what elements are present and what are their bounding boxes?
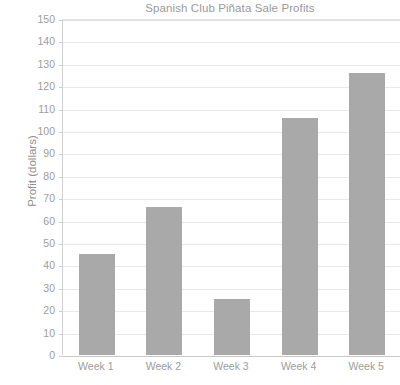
y-tick-label: 0 <box>15 349 55 361</box>
y-tick-label: 90 <box>15 147 55 159</box>
plot-area <box>62 19 400 355</box>
gridline <box>63 65 400 66</box>
y-tick-mark <box>59 266 63 267</box>
y-tick-mark <box>59 110 63 111</box>
bar-chart: Spanish Club Piñata Sale Profits Profit … <box>0 0 400 385</box>
y-tick-mark <box>59 154 63 155</box>
y-tick-label: 70 <box>15 192 55 204</box>
y-tick-mark <box>59 132 63 133</box>
y-tick-label: 50 <box>15 237 55 249</box>
y-tick-mark <box>59 20 63 21</box>
gridline <box>63 356 400 357</box>
x-tick-label: Week 1 <box>78 360 113 372</box>
y-tick-mark <box>59 289 63 290</box>
chart-title: Spanish Club Piñata Sale Profits <box>60 2 400 14</box>
y-tick-label: 80 <box>15 170 55 182</box>
bar <box>349 73 385 355</box>
y-tick-label: 60 <box>15 215 55 227</box>
y-tick-label: 40 <box>15 259 55 271</box>
y-tick-label: 150 <box>15 13 55 25</box>
y-tick-mark <box>59 311 63 312</box>
y-tick-label: 130 <box>15 58 55 70</box>
y-tick-label: 100 <box>15 125 55 137</box>
y-tick-mark <box>59 87 63 88</box>
gridline <box>63 20 400 21</box>
y-tick-mark <box>59 334 63 335</box>
y-tick-mark <box>59 42 63 43</box>
x-tick-label: Week 2 <box>146 360 181 372</box>
y-tick-label: 20 <box>15 304 55 316</box>
y-tick-mark <box>59 65 63 66</box>
y-tick-label: 120 <box>15 80 55 92</box>
y-tick-label: 30 <box>15 282 55 294</box>
bar <box>146 207 182 355</box>
gridline <box>63 42 400 43</box>
x-tick-label: Week 3 <box>213 360 248 372</box>
y-tick-mark <box>59 356 63 357</box>
y-tick-mark <box>59 177 63 178</box>
bar <box>282 118 318 355</box>
y-tick-label: 140 <box>15 35 55 47</box>
y-tick-mark <box>59 244 63 245</box>
x-tick-label: Week 5 <box>348 360 383 372</box>
bar <box>79 254 115 355</box>
y-tick-mark <box>59 222 63 223</box>
bar <box>214 299 250 355</box>
y-tick-label: 10 <box>15 327 55 339</box>
x-tick-label: Week 4 <box>281 360 316 372</box>
y-tick-label: 110 <box>15 103 55 115</box>
y-tick-mark <box>59 199 63 200</box>
